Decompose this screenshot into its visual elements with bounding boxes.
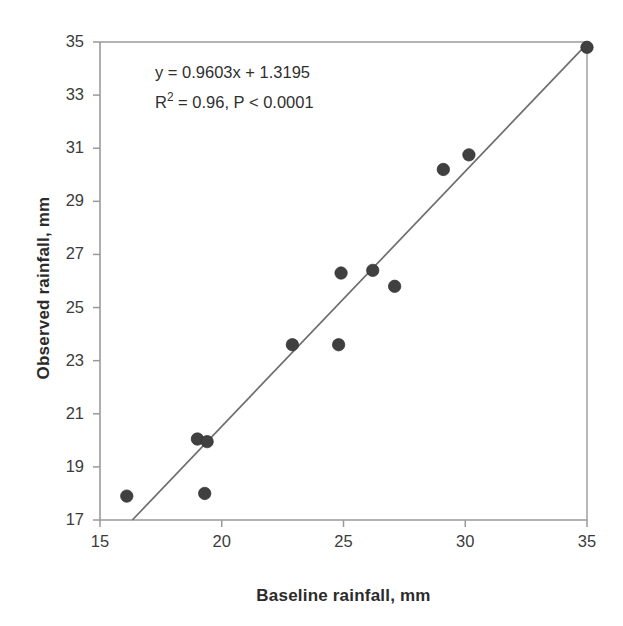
data-point <box>463 149 475 161</box>
trend-line <box>132 44 587 520</box>
data-point <box>121 490 133 502</box>
scatter-chart-figure: Observed rainfall, mm Baseline rainfall,… <box>0 0 623 626</box>
data-point <box>286 339 298 351</box>
regression-equation: y = 0.9603x + 1.3195 <box>155 60 314 85</box>
data-point <box>335 267 347 279</box>
data-point <box>437 163 449 175</box>
r-squared-value-and-p: = 0.96, P < 0.0001 <box>174 93 314 111</box>
axis-tick-marks <box>93 42 587 527</box>
r-squared-exponent: 2 <box>167 90 174 104</box>
regression-stats: R2 = 0.96, P < 0.0001 <box>155 85 314 115</box>
data-point <box>201 435 213 447</box>
data-point <box>388 280 400 292</box>
r-squared-symbol: R <box>155 93 167 111</box>
data-point <box>332 339 344 351</box>
data-point <box>367 264 379 276</box>
regression-annotation: y = 0.9603x + 1.3195 R2 = 0.96, P < 0.00… <box>155 60 314 115</box>
data-point <box>199 487 211 499</box>
data-point <box>581 41 593 53</box>
